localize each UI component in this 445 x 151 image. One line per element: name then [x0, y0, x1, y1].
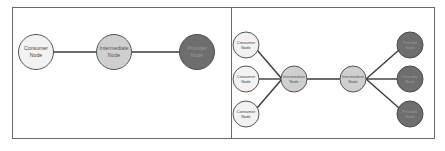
- left-node-provider: Provider Node: [180, 35, 215, 70]
- edge-intermediate2-provider3: [366, 79, 399, 108]
- node-label: Node: [108, 52, 121, 58]
- right-node-intermediate-2: Intermediate Node: [340, 66, 366, 92]
- left-node-intermediate: Intermediate Node: [97, 35, 132, 70]
- node-label: Node: [289, 79, 299, 84]
- node-label: Node: [30, 52, 43, 58]
- right-node-consumer-1: Consumer Node: [233, 32, 259, 58]
- node-label: Provider: [187, 45, 207, 51]
- right-node-consumer-2: Consumer Node: [233, 66, 259, 92]
- node-label: Node: [191, 52, 204, 58]
- node-label: Node: [405, 79, 415, 84]
- node-label: Intermediate: [100, 45, 129, 51]
- node-label: Node: [405, 114, 415, 119]
- left-node-consumer: Consumer Node: [19, 35, 54, 70]
- right-node-provider-2: Provider Node: [397, 66, 423, 92]
- edge-consumer1-intermediate1: [257, 50, 282, 79]
- node-label: Node: [405, 45, 415, 50]
- node-label: Node: [241, 114, 251, 119]
- right-node-consumer-3: Consumer Node: [233, 101, 259, 127]
- edge-intermediate2-provider1: [366, 50, 399, 79]
- right-node-intermediate-1: Intermediate Node: [281, 66, 307, 92]
- edge-consumer3-intermediate1: [257, 79, 282, 108]
- node-label: Node: [348, 79, 358, 84]
- left-panel-frame: [13, 8, 232, 139]
- node-label: Consumer: [24, 45, 48, 51]
- right-panel-edges: [257, 50, 399, 108]
- network-diagram: Consumer Node Intermediate Node Provider…: [0, 0, 445, 151]
- right-node-provider-1: Provider Node: [397, 32, 423, 58]
- node-label: Node: [241, 45, 251, 50]
- right-node-provider-3: Provider Node: [397, 101, 423, 127]
- node-label: Node: [241, 79, 251, 84]
